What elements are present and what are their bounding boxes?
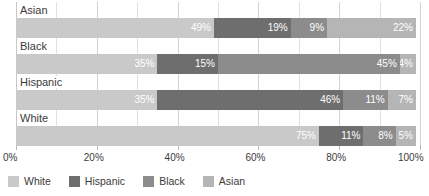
bar-segment-black-hispanic[interactable]: 15% (157, 54, 218, 74)
bar-segment-asian-black[interactable]: 9% (291, 18, 327, 38)
bar-segment-white-hispanic[interactable]: 11% (319, 126, 363, 146)
legend-label: Black (159, 176, 185, 187)
bar-row: White75%11%8%5% (16, 112, 420, 146)
x-axis: 0%20%40%60%80%100% (16, 145, 420, 167)
legend-label: Asian (219, 176, 245, 187)
bar-segment-asian-hispanic[interactable]: 19% (214, 18, 291, 38)
bar-row: Asian49%19%9%22% (16, 4, 420, 38)
bar-segment-black-asian[interactable]: 4% (400, 54, 416, 74)
legend-label: Hispanic (85, 176, 125, 187)
bar-segment-white-asian[interactable]: 5% (396, 126, 416, 146)
gridline-100 (420, 2, 421, 145)
legend-swatch-icon-white (8, 176, 19, 187)
stacked-bar-chart: Asian49%19%9%22%Black35%15%45%4%Hispanic… (0, 0, 429, 196)
chart-legend: WhiteHispanicBlackAsian (8, 172, 263, 190)
bar-segment-asian-white[interactable]: 49% (16, 18, 214, 38)
bar-row: Black35%15%45%4% (16, 40, 420, 74)
x-tick-label-100: 100% (398, 152, 424, 163)
category-label-asian: Asian (19, 4, 50, 16)
x-tick-label-40: 40% (165, 152, 185, 163)
bar-segment-hispanic-black[interactable]: 11% (343, 90, 387, 110)
bar-segment-hispanic-asian[interactable]: 7% (388, 90, 416, 110)
legend-swatch-icon-hispanic (69, 176, 80, 187)
category-label-hispanic: Hispanic (19, 76, 64, 88)
bar-row: Hispanic35%46%11%7% (16, 76, 420, 110)
bar-segment-asian-asian[interactable]: 22% (327, 18, 416, 38)
x-tick-label-80: 80% (326, 152, 346, 163)
bar-segment-white-black[interactable]: 8% (363, 126, 395, 146)
bar-segment-white-white[interactable]: 75% (16, 126, 319, 146)
x-tick-label-20: 20% (84, 152, 104, 163)
stacked-bar-white[interactable]: 75%11%8%5% (16, 126, 420, 146)
stacked-bar-hispanic[interactable]: 35%46%11%7% (16, 90, 420, 110)
legend-label: White (24, 176, 51, 187)
bar-segment-hispanic-hispanic[interactable]: 46% (157, 90, 343, 110)
x-tick-label-60: 60% (245, 152, 265, 163)
legend-item-black[interactable]: Black (143, 176, 185, 187)
legend-swatch-icon-asian (203, 176, 214, 187)
legend-item-asian[interactable]: Asian (203, 176, 245, 187)
category-label-black: Black (19, 40, 49, 52)
x-tick-mark-100 (420, 145, 421, 150)
bar-segment-hispanic-white[interactable]: 35% (16, 90, 157, 110)
bar-segment-black-black[interactable]: 45% (218, 54, 400, 74)
legend-item-white[interactable]: White (8, 176, 51, 187)
stacked-bar-asian[interactable]: 49%19%9%22% (16, 18, 420, 38)
plot-area: Asian49%19%9%22%Black35%15%45%4%Hispanic… (16, 2, 420, 145)
x-tick-label-0: 0% (3, 152, 17, 163)
stacked-bar-black[interactable]: 35%15%45%4% (16, 54, 420, 74)
category-label-white: White (19, 112, 50, 124)
legend-swatch-icon-black (143, 176, 154, 187)
legend-item-hispanic[interactable]: Hispanic (69, 176, 125, 187)
bar-segment-black-white[interactable]: 35% (16, 54, 157, 74)
